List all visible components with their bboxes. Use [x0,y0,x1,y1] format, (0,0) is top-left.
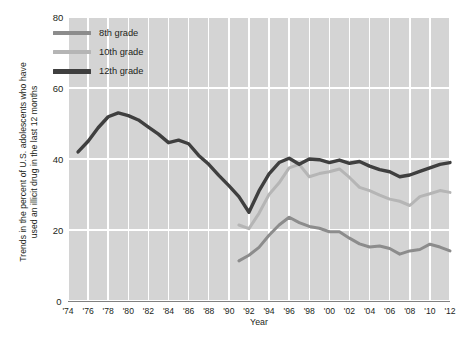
legend-item-12th-grade: 12th grade [53,66,143,76]
legend-label-10th-grade: 10th grade [99,47,143,57]
legend-label-12th-grade: 12th grade [99,66,143,76]
x-axis-tick-label: '94 [263,306,274,316]
chart-figure: Trends in the percent of U.S. adolescent… [0,0,473,344]
x-axis-tick-label: '80 [123,306,134,316]
chart-legend: 8th grade 10th grade 12th grade [53,28,143,76]
x-axis-tick-label: '86 [183,306,194,316]
y-axis-tick-label: 60 [53,83,64,94]
x-axis-tick-label: '78 [103,306,114,316]
x-axis-tick-label: '04 [364,306,375,316]
x-axis-title: Year [68,317,450,327]
x-axis-tick-label: '88 [203,306,214,316]
y-axis-tick-label: 80 [53,12,64,23]
y-axis-tick-label: 0 [56,296,61,307]
x-axis-tick-label: '10 [424,306,435,316]
y-axis-tick-label: 20 [53,225,64,236]
x-axis-tick-label: '08 [404,306,415,316]
y-axis-title-line-1: Trends in the percent of U.S. adolescent… [18,62,28,261]
y-axis-tick-label: 40 [53,154,64,165]
legend-swatch-12th-grade [53,69,91,74]
x-axis-tick-label: '02 [344,306,355,316]
legend-item-8th-grade: 8th grade [53,28,143,38]
x-axis-tick-label: '84 [163,306,174,316]
x-axis-tick-label: '90 [223,306,234,316]
x-axis-tick-label: '82 [143,306,154,316]
series-line-12th-grade [78,113,450,212]
legend-swatch-10th-grade [53,50,91,54]
x-axis-tick-label: '12 [444,306,455,316]
x-axis-tick-label: '98 [304,306,315,316]
x-axis-tick-label: '96 [284,306,295,316]
x-axis-tick-label: '00 [324,306,335,316]
legend-swatch-8th-grade [53,31,91,35]
series-line-8th-grade [239,217,450,261]
x-axis-tick-label: '06 [384,306,395,316]
legend-item-10th-grade: 10th grade [53,47,143,57]
y-axis-title: Trends in the percent of U.S. adolescent… [14,24,44,300]
x-axis-tick-label: '92 [243,306,254,316]
legend-label-8th-grade: 8th grade [99,28,138,38]
y-axis-title-line-2: used an illicit drug in the last 12 mont… [29,86,39,239]
x-axis-tick-label: '74 [62,306,73,316]
x-axis-tick-label: '76 [82,306,93,316]
